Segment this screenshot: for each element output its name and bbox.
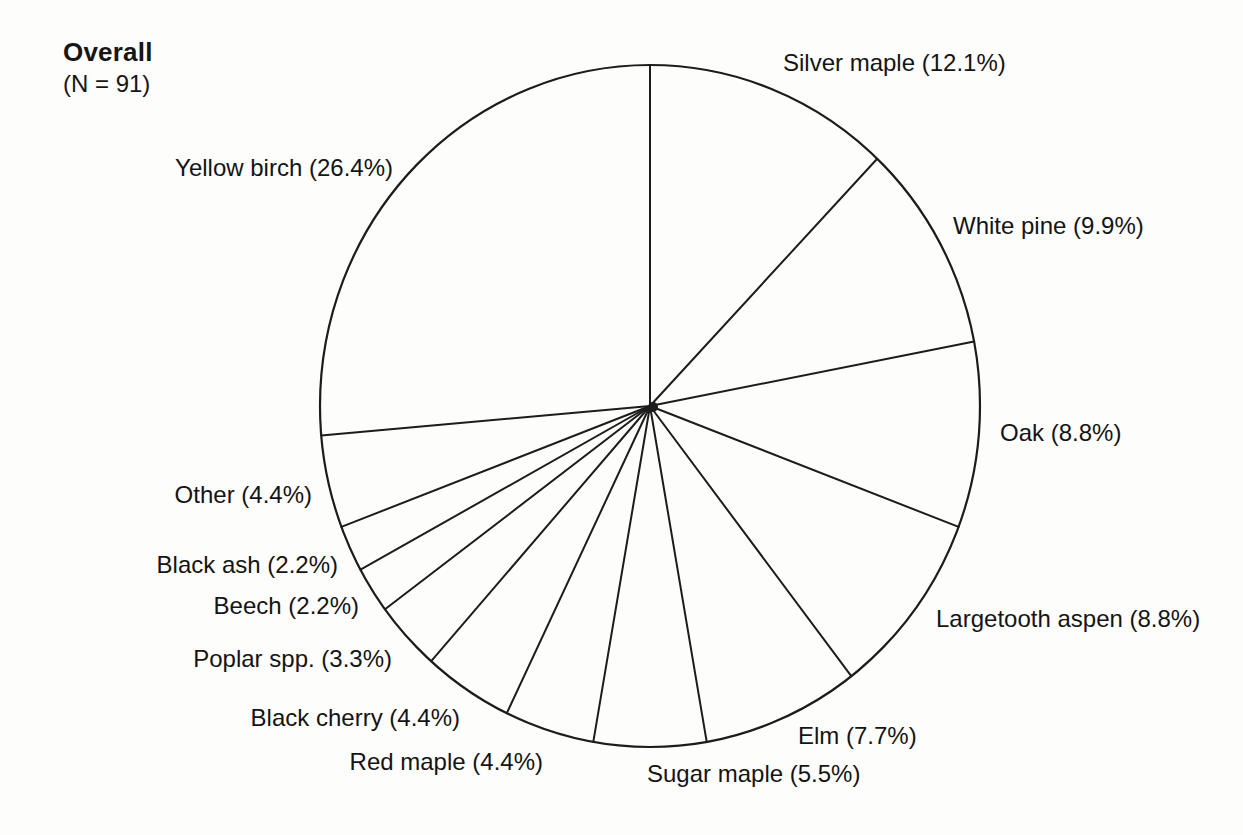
slice-label-silver-maple: Silver maple (12.1%) <box>783 50 1006 76</box>
slice-boundary-black-ash <box>361 406 651 570</box>
slice-boundary-sugar-maple <box>650 406 707 742</box>
figure-page: Overall (N = 91) Silver maple (12.1%)Whi… <box>0 0 1243 835</box>
slice-label-black-ash: Black ash (2.2%) <box>157 552 338 578</box>
slice-label-black-cherry: Black cherry (4.4%) <box>251 705 460 731</box>
slice-label-oak: Oak (8.8%) <box>1000 420 1121 446</box>
slice-label-yellow-birch: Yellow birch (26.4%) <box>175 155 393 181</box>
slice-boundary-elm <box>650 406 851 676</box>
pie-chart <box>0 0 1243 835</box>
slice-boundary-yellow-birch <box>321 406 650 435</box>
slice-boundary-poplar-spp- <box>431 406 650 661</box>
slice-boundary-beech <box>385 406 650 609</box>
slice-label-white-pine: White pine (9.9%) <box>953 213 1144 239</box>
slice-label-red-maple: Red maple (4.4%) <box>350 749 543 775</box>
slice-boundary-black-cherry <box>507 406 650 713</box>
slice-boundary-oak <box>650 342 974 406</box>
slice-label-elm: Elm (7.7%) <box>798 723 917 749</box>
slice-boundary-white-pine <box>650 159 877 406</box>
slice-label-other: Other (4.4%) <box>175 482 312 508</box>
slice-label-sugar-maple: Sugar maple (5.5%) <box>647 761 860 787</box>
slice-label-beech: Beech (2.2%) <box>214 593 359 619</box>
slice-label-poplar-spp-: Poplar spp. (3.3%) <box>193 646 392 672</box>
pie-center-hub <box>648 402 658 412</box>
slice-boundary-red-maple <box>593 406 650 742</box>
slice-label-largetooth-aspen: Largetooth aspen (8.8%) <box>936 606 1200 632</box>
slice-boundary-largetooth-aspen <box>650 406 959 527</box>
slice-boundary-other <box>341 406 650 527</box>
